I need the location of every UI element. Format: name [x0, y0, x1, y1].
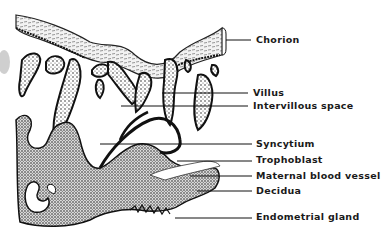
placenta-illustration: [0, 0, 389, 237]
label-maternal-blood-vessel: Maternal blood vessel: [256, 171, 380, 181]
label-intervillous-space: Intervillous space: [253, 101, 354, 111]
smudge: [0, 50, 10, 74]
label-trophoblast: Trophoblast: [256, 155, 323, 165]
villi: [19, 53, 218, 140]
label-chorion: Chorion: [256, 35, 300, 45]
label-endometrial-gland: Endometrial gland: [256, 212, 360, 222]
label-decidua: Decidua: [256, 186, 301, 196]
label-villus: Villus: [253, 88, 284, 98]
chorion-bracket: [222, 28, 229, 55]
label-syncytium: Syncytium: [256, 139, 315, 149]
